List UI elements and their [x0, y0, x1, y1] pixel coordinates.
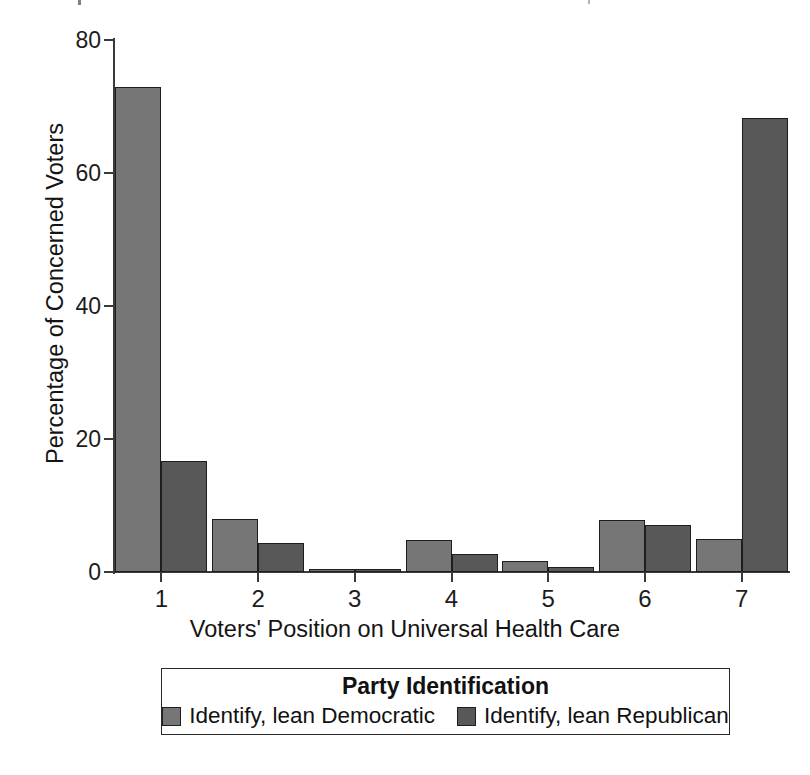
x-tick-label: 6 — [615, 585, 675, 613]
x-tick-label: 3 — [325, 585, 385, 613]
bar — [309, 569, 355, 572]
x-tick — [547, 572, 549, 582]
bar — [115, 87, 161, 572]
bar — [696, 539, 742, 572]
x-tick — [354, 572, 356, 582]
x-tick — [451, 572, 453, 582]
x-tick — [644, 572, 646, 582]
x-tick-label: 1 — [131, 585, 191, 613]
x-tick-label: 4 — [422, 585, 482, 613]
x-axis-title: Voters' Position on Universal Health Car… — [0, 616, 810, 643]
bar — [355, 569, 401, 572]
bar — [502, 561, 548, 572]
bar — [742, 118, 788, 572]
x-tick — [160, 572, 162, 582]
legend-entries: Identify, lean DemocraticIdentify, lean … — [162, 703, 729, 729]
legend-label: Identify, lean Democratic — [189, 703, 435, 729]
y-tick-label: 0 — [41, 559, 101, 586]
x-tick — [741, 572, 743, 582]
bar — [599, 520, 645, 572]
legend: Party Identification Identify, lean Demo… — [161, 668, 730, 735]
cropped-text-artifact-2 — [588, 0, 590, 4]
legend-entry: Identify, lean Republican — [457, 703, 729, 729]
x-tick-label: 5 — [518, 585, 578, 613]
bar — [645, 525, 691, 572]
bar — [548, 567, 594, 572]
cropped-text-artifact — [78, 0, 81, 5]
bar — [452, 554, 498, 572]
bar — [161, 461, 207, 572]
x-tick-label: 2 — [228, 585, 288, 613]
bar — [406, 540, 452, 572]
plot-area — [113, 40, 790, 572]
y-axis-title: Percentage of Concerned Voters — [42, 34, 69, 554]
legend-swatch-icon — [457, 707, 476, 726]
bar-chart-figure: 020406080 1234567 Percentage of Concerne… — [0, 0, 810, 775]
bar — [212, 519, 258, 572]
legend-title: Party Identification — [162, 673, 729, 700]
legend-label: Identify, lean Republican — [484, 703, 729, 729]
x-tick-label: 7 — [712, 585, 772, 613]
legend-entry: Identify, lean Democratic — [162, 703, 435, 729]
x-tick — [257, 572, 259, 582]
legend-swatch-icon — [162, 707, 181, 726]
bar — [258, 543, 304, 572]
